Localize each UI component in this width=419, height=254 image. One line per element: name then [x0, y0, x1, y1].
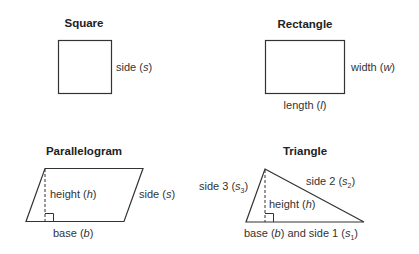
rectangle-figure: Rectangle width (w) length (l) — [266, 18, 396, 111]
rectangle-shape — [266, 41, 345, 94]
triangle-side3-label: side 3 (s3) — [199, 180, 248, 194]
rectangle-width-label: width (w) — [350, 61, 395, 73]
parallelogram-base-label: base (b) — [53, 227, 93, 239]
right-angle-marker — [265, 214, 274, 223]
triangle-base-label: base (b) and side 1 (s1) — [244, 227, 358, 241]
square-side-label: side (s) — [116, 61, 152, 73]
square-figure: Square side (s) — [59, 17, 153, 94]
parallelogram-figure: Parallelogram height (h) side (s) base (… — [26, 145, 175, 239]
triangle-height-label: height (h) — [269, 198, 316, 210]
triangle-title: Triangle — [283, 145, 327, 157]
right-angle-marker — [45, 214, 54, 222]
parallelogram-title: Parallelogram — [46, 145, 122, 157]
square-shape — [59, 41, 112, 94]
geometry-shapes-diagram: Square side (s) Rectangle width (w) leng… — [0, 0, 419, 254]
parallelogram-side-label: side (s) — [139, 188, 175, 200]
parallelogram-height-label: height (h) — [50, 188, 97, 200]
triangle-side2-label: side 2 (s2) — [306, 175, 355, 189]
rectangle-length-label: length (l) — [284, 99, 327, 111]
rectangle-title: Rectangle — [278, 18, 333, 30]
square-title: Square — [65, 17, 104, 29]
triangle-figure: Triangle side 3 (s3) side 2 (s2) height … — [199, 145, 364, 241]
